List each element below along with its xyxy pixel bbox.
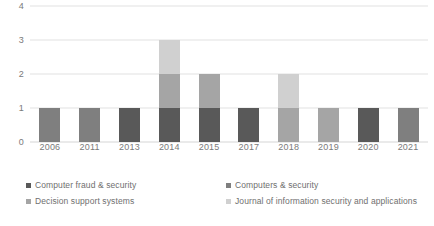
bar-group (269, 6, 309, 142)
bar-group (348, 6, 388, 142)
x-axis-tick-label: 2011 (70, 142, 110, 153)
bar-stack[interactable] (39, 108, 60, 142)
bar-segment[interactable] (119, 108, 140, 142)
bar-segment[interactable] (79, 108, 100, 142)
x-axis-tick-label: 2020 (348, 142, 388, 153)
bar-segment[interactable] (278, 74, 299, 108)
bar-segment[interactable] (199, 74, 220, 108)
stacked-bar-chart: 01234 2006201120132014201520172018201920… (0, 0, 434, 226)
bar-stack[interactable] (398, 108, 419, 142)
bar-group (149, 6, 189, 142)
legend-item-label: Computer fraud & security (35, 180, 136, 190)
bar-group (70, 6, 110, 142)
y-axis-tick-label: 0 (19, 138, 24, 147)
y-axis: 01234 (0, 6, 30, 142)
legend-item-label: Decision support systems (35, 196, 134, 206)
bar-group (110, 6, 150, 142)
x-axis-tick-label: 2006 (30, 142, 70, 153)
chart-legend: Computer fraud & securityComputers & sec… (26, 180, 426, 206)
bar-segment[interactable] (39, 108, 60, 142)
bar-stack[interactable] (238, 108, 259, 142)
bar-stack[interactable] (159, 40, 180, 142)
bar-group (30, 6, 70, 142)
legend-item[interactable]: Computer fraud & security (26, 180, 226, 190)
bar-group (388, 6, 428, 142)
bar-segment[interactable] (199, 108, 220, 142)
y-axis-tick-label: 2 (19, 70, 24, 79)
legend-swatch-icon (226, 183, 231, 188)
x-axis-tick-label: 2014 (149, 142, 189, 153)
y-axis-tick-label: 3 (19, 36, 24, 45)
legend-item-label: Journal of information security and appl… (235, 196, 417, 206)
bar-stack[interactable] (79, 108, 100, 142)
x-axis-tick-label: 2018 (269, 142, 309, 153)
x-axis: 2006201120132014201520172018201920202021 (30, 142, 428, 158)
bar-stack[interactable] (278, 74, 299, 142)
legend-item[interactable]: Decision support systems (26, 196, 226, 206)
legend-item[interactable]: Computers & security (226, 180, 426, 190)
bar-segment[interactable] (159, 74, 180, 108)
legend-swatch-icon (226, 199, 231, 204)
y-axis-tick-label: 1 (19, 104, 24, 113)
bar-segment[interactable] (398, 108, 419, 142)
x-axis-tick-label: 2019 (309, 142, 349, 153)
bar-group (229, 6, 269, 142)
bar-group (309, 6, 349, 142)
legend-item[interactable]: Journal of information security and appl… (226, 196, 426, 206)
legend-swatch-icon (26, 183, 31, 188)
bar-segment[interactable] (358, 108, 379, 142)
bars-layer (30, 6, 428, 142)
x-axis-tick-label: 2013 (110, 142, 150, 153)
bar-stack[interactable] (119, 108, 140, 142)
bar-stack[interactable] (199, 74, 220, 142)
bar-segment[interactable] (318, 108, 339, 142)
bar-stack[interactable] (318, 108, 339, 142)
bar-group (189, 6, 229, 142)
bar-segment[interactable] (278, 108, 299, 142)
bar-segment[interactable] (159, 40, 180, 74)
bar-stack[interactable] (358, 108, 379, 142)
bar-segment[interactable] (238, 108, 259, 142)
x-axis-tick-label: 2015 (189, 142, 229, 153)
y-axis-tick-label: 4 (19, 2, 24, 11)
legend-swatch-icon (26, 199, 31, 204)
x-axis-tick-label: 2017 (229, 142, 269, 153)
x-axis-tick-label: 2021 (388, 142, 428, 153)
plot-area: 01234 (0, 6, 434, 158)
legend-item-label: Computers & security (235, 180, 318, 190)
bar-segment[interactable] (159, 108, 180, 142)
